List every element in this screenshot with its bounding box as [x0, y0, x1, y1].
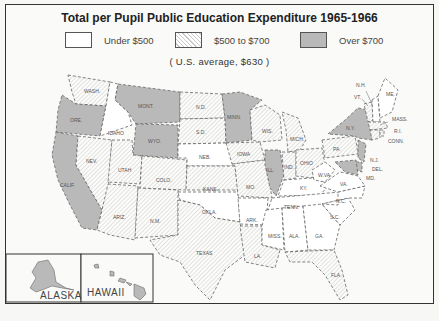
label-ind: IND. [284, 164, 294, 170]
label-nm: N.M. [150, 218, 161, 224]
label-ri: R.I. [394, 128, 402, 134]
label-mich: MICH. [290, 136, 304, 142]
label-nev: NEV. [86, 158, 97, 164]
label-vt: VT. [354, 94, 361, 100]
label-mont: MONT. [138, 103, 154, 109]
label-mo: MO. [246, 184, 255, 190]
label-iowa: IOWA [237, 151, 251, 157]
label-ala: ALA. [289, 233, 300, 239]
label-va: VA. [340, 181, 348, 187]
label-neb: NEB. [199, 154, 211, 160]
label-kans: KANS. [203, 186, 218, 192]
us-map: WASH. ORE. CALIF. IDAHO NEV. MONT. WYO. … [0, 0, 439, 321]
label-nd: N.D. [196, 104, 206, 110]
label-ill: ILL. [266, 167, 274, 173]
label-ark: ARK. [246, 217, 258, 223]
label-wva: W.VA. [318, 172, 332, 178]
label-utah: UTAH [118, 167, 132, 173]
label-fla: FLA. [331, 272, 342, 278]
state-ri [380, 130, 384, 136]
label-nc: N.C. [336, 198, 346, 204]
label-ky: KY. [300, 185, 307, 191]
label-wyo: WYO. [148, 138, 161, 144]
label-alaska: ALASKA [40, 290, 82, 301]
label-calif: CALIF. [60, 182, 75, 188]
label-ohio: OHIO [300, 160, 313, 166]
label-wis: WIS. [262, 128, 273, 134]
label-md: MD. [366, 175, 375, 181]
label-ny: N.Y. [346, 125, 355, 131]
label-la: LA. [254, 253, 262, 259]
label-conn: CONN. [388, 138, 404, 144]
label-nh: N.H. [356, 82, 366, 88]
label-minn: MINN. [227, 114, 241, 120]
label-ariz: ARIZ. [113, 214, 126, 220]
label-idaho: IDAHO [108, 130, 124, 136]
label-sd: S.D. [196, 129, 206, 135]
label-del: DEL. [372, 166, 383, 172]
label-texas: TEXAS [196, 250, 213, 256]
label-ga: GA. [315, 233, 324, 239]
label-okla: OKLA. [202, 209, 217, 215]
state-conn [370, 130, 380, 140]
label-miss: MISS. [268, 233, 282, 239]
label-nj: N.J. [370, 157, 379, 163]
label-pa: PA. [333, 146, 341, 152]
label-me: ME. [386, 91, 395, 97]
state-nj [358, 140, 366, 162]
label-ore: ORE. [70, 117, 82, 123]
state-mich [282, 112, 306, 152]
state-ny [328, 108, 372, 140]
state-miss [262, 208, 284, 250]
label-sc: S.C. [330, 214, 340, 220]
label-tenn: TENN. [284, 204, 299, 210]
label-mass: MASS. [392, 116, 408, 122]
state-colo [140, 156, 187, 190]
state-wis [250, 105, 282, 142]
label-hawaii: HAWAII [87, 287, 125, 298]
state-me [378, 78, 398, 118]
label-colo: COLO. [156, 177, 172, 183]
label-wash: WASH. [84, 88, 100, 94]
state-nm [135, 188, 178, 238]
